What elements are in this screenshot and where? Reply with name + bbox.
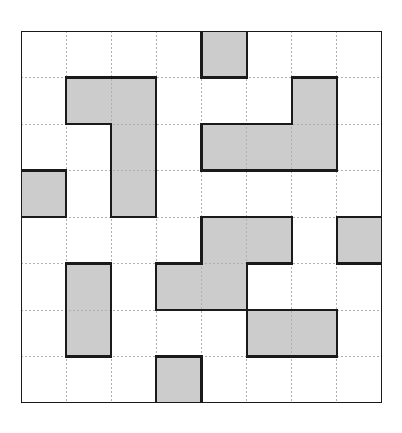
grid-cell-shaded	[202, 264, 247, 311]
grid-cell-shaded	[202, 124, 247, 171]
grid-cell-shaded	[111, 78, 156, 125]
grid-cell-shaded	[21, 171, 66, 218]
grid-cell-shaded	[111, 171, 156, 218]
grid-cell-shaded	[202, 31, 247, 78]
grid-cell-shaded	[247, 217, 292, 264]
grid-cell-shaded	[247, 310, 292, 357]
grid-cell-shaded	[156, 264, 201, 311]
grid-cell-shaded	[247, 124, 292, 171]
figure-canvas	[0, 0, 402, 433]
grid-cell-shaded	[292, 78, 337, 125]
grid-cell-shaded	[337, 217, 382, 264]
grid-cell-shaded	[202, 217, 247, 264]
grid-cell-shaded	[66, 264, 111, 311]
grid-svg	[21, 31, 382, 403]
grid-cell-shaded	[111, 124, 156, 171]
grid-cell-shaded	[66, 78, 111, 125]
shaded-grid-figure	[21, 31, 382, 403]
grid-cell-shaded	[156, 357, 201, 404]
grid-cell-shaded	[292, 124, 337, 171]
grid-cell-shaded	[66, 310, 111, 357]
grid-cell-shaded	[292, 310, 337, 357]
